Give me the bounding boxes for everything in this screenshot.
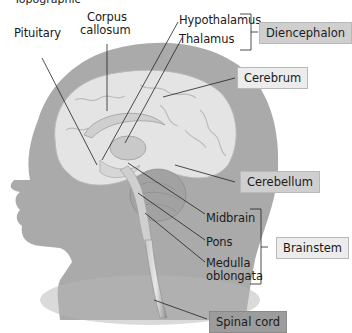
label-medulla-line2: oblongata bbox=[206, 270, 263, 282]
label-thalamus: Thalamus bbox=[179, 33, 234, 45]
box-brainstem: Brainstem bbox=[276, 237, 349, 259]
label-pons: Pons bbox=[206, 236, 232, 248]
box-cerebrum: Cerebrum bbox=[237, 67, 308, 89]
label-corpus-callosum-line2: callosum bbox=[80, 24, 130, 36]
label-hypothalamus: Hypothalamus bbox=[179, 14, 261, 26]
label-corpus-callosum-line1: Corpus bbox=[87, 11, 127, 23]
box-spinal-cord: Spinal cord bbox=[209, 311, 287, 333]
box-diencephalon: Diencephalon bbox=[259, 22, 352, 44]
label-medulla-line1: Medulla bbox=[206, 257, 250, 269]
label-midbrain: Midbrain bbox=[206, 212, 255, 224]
box-cerebellum: Cerebellum bbox=[240, 171, 320, 193]
label-pituitary: Pituitary bbox=[14, 27, 61, 39]
